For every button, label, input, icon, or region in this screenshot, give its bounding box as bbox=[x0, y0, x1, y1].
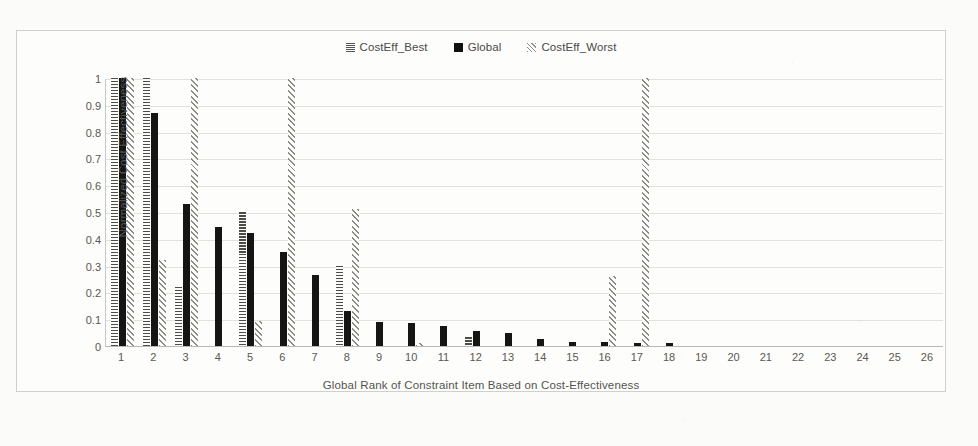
x-axis-tick-label: 26 bbox=[911, 351, 943, 363]
x-axis-tick-label: 5 bbox=[234, 351, 266, 363]
bar-global[interactable] bbox=[473, 331, 480, 346]
bar-group[interactable] bbox=[685, 79, 717, 346]
x-axis-tick-label: 23 bbox=[814, 351, 846, 363]
x-axis-tick-label: 7 bbox=[298, 351, 330, 363]
x-axis-tick-label: 1 bbox=[105, 351, 137, 363]
legend-swatch-diagonal-icon bbox=[527, 43, 536, 52]
bar-costeff-best[interactable] bbox=[239, 212, 246, 346]
x-axis-tick-label: 2 bbox=[137, 351, 169, 363]
x-axis-tick-label: 15 bbox=[556, 351, 588, 363]
bar-group[interactable] bbox=[267, 79, 299, 346]
x-axis-tick-label: 25 bbox=[879, 351, 911, 363]
bar-global[interactable] bbox=[312, 275, 319, 346]
bar-group[interactable] bbox=[557, 79, 589, 346]
bar-costeff-best[interactable] bbox=[465, 337, 472, 346]
bar-group[interactable] bbox=[138, 79, 170, 346]
x-axis-tick-label: 13 bbox=[492, 351, 524, 363]
y-axis-tick-labels: 00.10.20.30.40.50.60.70.80.91 bbox=[75, 79, 101, 347]
bar-group[interactable] bbox=[428, 79, 460, 346]
y-axis-tick-label: 0.4 bbox=[86, 234, 101, 246]
bar-costeff-best[interactable] bbox=[336, 266, 343, 346]
bar-costeff-worst[interactable] bbox=[288, 78, 295, 346]
x-axis-tick-label: 19 bbox=[685, 351, 717, 363]
legend-item-costeff-best[interactable]: CostEff_Best bbox=[346, 41, 428, 53]
y-axis-tick-label: 0.7 bbox=[86, 153, 101, 165]
bar-global[interactable] bbox=[151, 113, 158, 346]
bar-group[interactable] bbox=[170, 79, 202, 346]
bar-costeff-worst[interactable] bbox=[255, 321, 262, 346]
bar-costeff-worst[interactable] bbox=[159, 260, 166, 346]
bar-costeff-worst[interactable] bbox=[642, 78, 649, 346]
bar-global[interactable] bbox=[247, 233, 254, 346]
x-axis-tick-label: 16 bbox=[589, 351, 621, 363]
chart-frame: CostEff_Best Global CostEff_Worst Normal… bbox=[16, 30, 946, 392]
x-axis-tick-label: 22 bbox=[782, 351, 814, 363]
y-axis-tick-label: 0.9 bbox=[86, 100, 101, 112]
legend-item-costeff-worst[interactable]: CostEff_Worst bbox=[527, 41, 616, 53]
x-axis-tick-label: 17 bbox=[621, 351, 653, 363]
x-axis-tick-label: 24 bbox=[846, 351, 878, 363]
y-axis-tick-label: 0 bbox=[95, 341, 101, 353]
bar-costeff-best[interactable] bbox=[143, 78, 150, 346]
bar-global[interactable] bbox=[440, 326, 447, 346]
x-axis-tick-label: 9 bbox=[363, 351, 395, 363]
legend-swatch-solid-icon bbox=[454, 43, 463, 52]
y-axis-tick-label: 1 bbox=[95, 73, 101, 85]
y-axis-tick-label: 0.2 bbox=[86, 287, 101, 299]
bar-group[interactable] bbox=[750, 79, 782, 346]
bar-global[interactable] bbox=[537, 339, 544, 346]
bar-series-container bbox=[106, 79, 943, 346]
x-axis-tick-label: 10 bbox=[395, 351, 427, 363]
bar-global[interactable] bbox=[634, 343, 641, 346]
bar-group[interactable] bbox=[331, 79, 363, 346]
bar-group[interactable] bbox=[621, 79, 653, 346]
bar-costeff-worst[interactable] bbox=[609, 276, 616, 346]
bar-group[interactable] bbox=[653, 79, 685, 346]
y-axis-tick-label: 0.3 bbox=[86, 261, 101, 273]
x-axis-tick-label: 11 bbox=[427, 351, 459, 363]
bar-global[interactable] bbox=[505, 333, 512, 346]
bar-group[interactable] bbox=[524, 79, 556, 346]
bar-global[interactable] bbox=[666, 343, 673, 346]
bar-costeff-worst[interactable] bbox=[352, 209, 359, 346]
x-axis-tick-label: 18 bbox=[653, 351, 685, 363]
bar-group[interactable] bbox=[460, 79, 492, 346]
y-axis-title: Normalized Cost Effectiveness bbox=[117, 67, 129, 247]
bar-costeff-worst[interactable] bbox=[191, 78, 198, 346]
bar-costeff-worst[interactable] bbox=[416, 343, 423, 346]
x-axis-tick-label: 21 bbox=[750, 351, 782, 363]
bar-group[interactable] bbox=[879, 79, 911, 346]
bar-global[interactable] bbox=[569, 342, 576, 346]
bar-group[interactable] bbox=[814, 79, 846, 346]
bar-global[interactable] bbox=[344, 311, 351, 346]
bar-group[interactable] bbox=[492, 79, 524, 346]
x-axis-tick-label: 8 bbox=[331, 351, 363, 363]
x-axis-title: Global Rank of Constraint Item Based on … bbox=[17, 379, 945, 391]
bar-global[interactable] bbox=[601, 342, 608, 346]
y-axis-tick-label: 0.5 bbox=[86, 207, 101, 219]
bar-costeff-best[interactable] bbox=[175, 287, 182, 346]
bar-global[interactable] bbox=[183, 204, 190, 346]
bar-global[interactable] bbox=[376, 322, 383, 346]
bar-group[interactable] bbox=[782, 79, 814, 346]
bar-group[interactable] bbox=[589, 79, 621, 346]
bar-group[interactable] bbox=[911, 79, 943, 346]
x-axis-tick-label: 3 bbox=[169, 351, 201, 363]
bar-group[interactable] bbox=[235, 79, 267, 346]
bar-global[interactable] bbox=[215, 227, 222, 346]
x-axis-tick-label: 6 bbox=[266, 351, 298, 363]
bar-group[interactable] bbox=[203, 79, 235, 346]
legend-item-global[interactable]: Global bbox=[454, 41, 502, 53]
bar-group[interactable] bbox=[846, 79, 878, 346]
legend-swatch-dashed-icon bbox=[346, 43, 355, 52]
bar-group[interactable] bbox=[364, 79, 396, 346]
bar-group[interactable] bbox=[396, 79, 428, 346]
y-axis-tick-label: 0.1 bbox=[86, 314, 101, 326]
legend-label-costeff-worst: CostEff_Worst bbox=[541, 41, 616, 53]
bar-global[interactable] bbox=[280, 252, 287, 346]
bar-global[interactable] bbox=[408, 323, 415, 346]
bar-group[interactable] bbox=[718, 79, 750, 346]
legend-label-global: Global bbox=[468, 41, 502, 53]
plot-wrapper: 00.10.20.30.40.50.60.70.80.91 bbox=[105, 79, 943, 347]
bar-group[interactable] bbox=[299, 79, 331, 346]
